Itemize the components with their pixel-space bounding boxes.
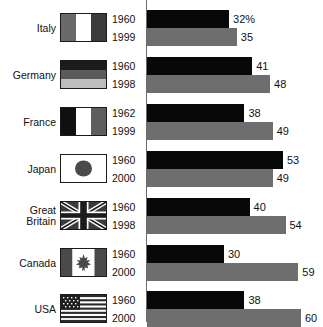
country-label: Canada bbox=[0, 258, 56, 269]
year-old-label: 1960 bbox=[112, 10, 143, 28]
year-new-label: 2000 bbox=[112, 263, 143, 281]
year-labels: 1960 1998 bbox=[112, 198, 143, 234]
country-label-line1: Italy bbox=[0, 23, 56, 34]
bar-old bbox=[147, 104, 244, 122]
country-label-wrap: France bbox=[0, 102, 56, 142]
year-old-label: 1960 bbox=[112, 57, 143, 75]
year-old-label: 1962 bbox=[112, 104, 143, 122]
flag-canada-icon bbox=[60, 248, 107, 277]
year-old-label: 1960 bbox=[112, 198, 143, 216]
bar-new bbox=[147, 28, 237, 46]
country-label-wrap: Great Britain bbox=[0, 196, 56, 236]
year-labels: 1960 1998 bbox=[112, 57, 143, 93]
bar-old-value: 38 bbox=[248, 104, 260, 122]
bar-new bbox=[147, 216, 286, 234]
chart-row: Great Britain 1960 bbox=[0, 196, 323, 236]
country-label-line1: Japan bbox=[0, 164, 56, 175]
flag-great-britain-icon bbox=[60, 201, 107, 230]
year-new-label: 1998 bbox=[112, 216, 143, 234]
year-new-label: 1998 bbox=[112, 75, 143, 93]
year-old-label: 1960 bbox=[112, 151, 143, 169]
year-new-label: 1999 bbox=[112, 122, 143, 140]
country-label-wrap: Japan bbox=[0, 149, 56, 189]
country-label-wrap: Italy bbox=[0, 8, 56, 48]
country-label: Germany bbox=[0, 70, 56, 81]
bar-new-value: 54 bbox=[290, 216, 302, 234]
country-label: Italy bbox=[0, 23, 56, 34]
year-labels: 1960 2000 bbox=[112, 245, 143, 281]
chart-row: USA bbox=[0, 289, 323, 327]
country-label-line1: Canada bbox=[0, 258, 56, 269]
country-label-wrap: Germany bbox=[0, 55, 56, 95]
chart-row: Canada 1960 2000 30 59 bbox=[0, 243, 323, 283]
flag-japan-icon bbox=[60, 154, 107, 183]
bar-new bbox=[147, 263, 298, 281]
bar-new bbox=[147, 122, 273, 140]
chart-row: Japan 1960 2000 53 49 bbox=[0, 149, 323, 189]
bar-new-value: 49 bbox=[277, 122, 289, 140]
year-new-label: 1999 bbox=[112, 28, 143, 46]
year-new-label: 2000 bbox=[112, 169, 143, 187]
bar-old bbox=[147, 57, 252, 75]
bar-new bbox=[147, 309, 301, 327]
bar-old-value: 30 bbox=[228, 245, 240, 263]
bar-old-value: 53 bbox=[287, 151, 299, 169]
bar-new-value: 48 bbox=[274, 75, 286, 93]
country-label-wrap: USA bbox=[0, 289, 56, 327]
year-labels: 1962 1999 bbox=[112, 104, 143, 140]
bar-old bbox=[147, 291, 244, 309]
country-label: USA bbox=[0, 304, 56, 315]
bar-new-value: 60 bbox=[305, 309, 317, 327]
year-old-label: 1960 bbox=[112, 245, 143, 263]
bar-old-value: 40 bbox=[254, 198, 266, 216]
country-label-line1: Germany bbox=[0, 70, 56, 81]
country-label: Great Britain bbox=[0, 205, 56, 227]
bar-old-value: 38 bbox=[248, 291, 260, 309]
year-old-label: 1960 bbox=[112, 291, 143, 309]
bar-new-value: 49 bbox=[277, 169, 289, 187]
bar-old bbox=[147, 245, 224, 263]
flag-italy-icon bbox=[60, 13, 107, 42]
country-label: France bbox=[0, 117, 56, 128]
bar-old-value: 32% bbox=[233, 10, 255, 28]
bar-new bbox=[147, 75, 270, 93]
country-label-line1: France bbox=[0, 117, 56, 128]
bar-old-value: 41 bbox=[256, 57, 268, 75]
chart-row: Italy 1960 1999 32% 35 bbox=[0, 8, 323, 48]
bar-old bbox=[147, 10, 229, 28]
country-label-line1: USA bbox=[0, 304, 56, 315]
chart-row: Germany 1960 1998 41 48 bbox=[0, 55, 323, 95]
country-label-wrap: Canada bbox=[0, 243, 56, 283]
year-new-label: 2000 bbox=[112, 309, 143, 327]
bar-new bbox=[147, 169, 273, 187]
chart-row: France 1962 1999 38 49 bbox=[0, 102, 323, 142]
country-label-line2: Britain bbox=[0, 216, 56, 227]
year-labels: 1960 2000 bbox=[112, 291, 143, 327]
bar-new-value: 35 bbox=[241, 28, 253, 46]
bar-old bbox=[147, 198, 250, 216]
bar-new-value: 59 bbox=[302, 263, 314, 281]
flag-usa-icon bbox=[60, 294, 107, 323]
flag-germany-icon bbox=[60, 60, 107, 89]
country-label: Japan bbox=[0, 164, 56, 175]
bar-old bbox=[147, 151, 283, 169]
year-labels: 1960 1999 bbox=[112, 10, 143, 46]
year-labels: 1960 2000 bbox=[112, 151, 143, 187]
flag-france-icon bbox=[60, 107, 107, 136]
bar-chart: Italy 1960 1999 32% 35 Germany bbox=[0, 0, 323, 327]
